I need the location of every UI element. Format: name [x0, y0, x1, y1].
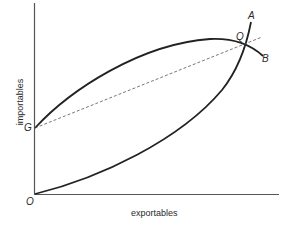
- point-a-label: A: [248, 11, 255, 21]
- point-q-label: Q: [236, 32, 244, 42]
- point-b-label: B: [262, 54, 269, 64]
- x-axis-label: exportables: [131, 209, 178, 218]
- origin-label: O: [26, 197, 34, 207]
- curve-oa: [35, 22, 251, 194]
- point-g-label: G: [24, 123, 32, 133]
